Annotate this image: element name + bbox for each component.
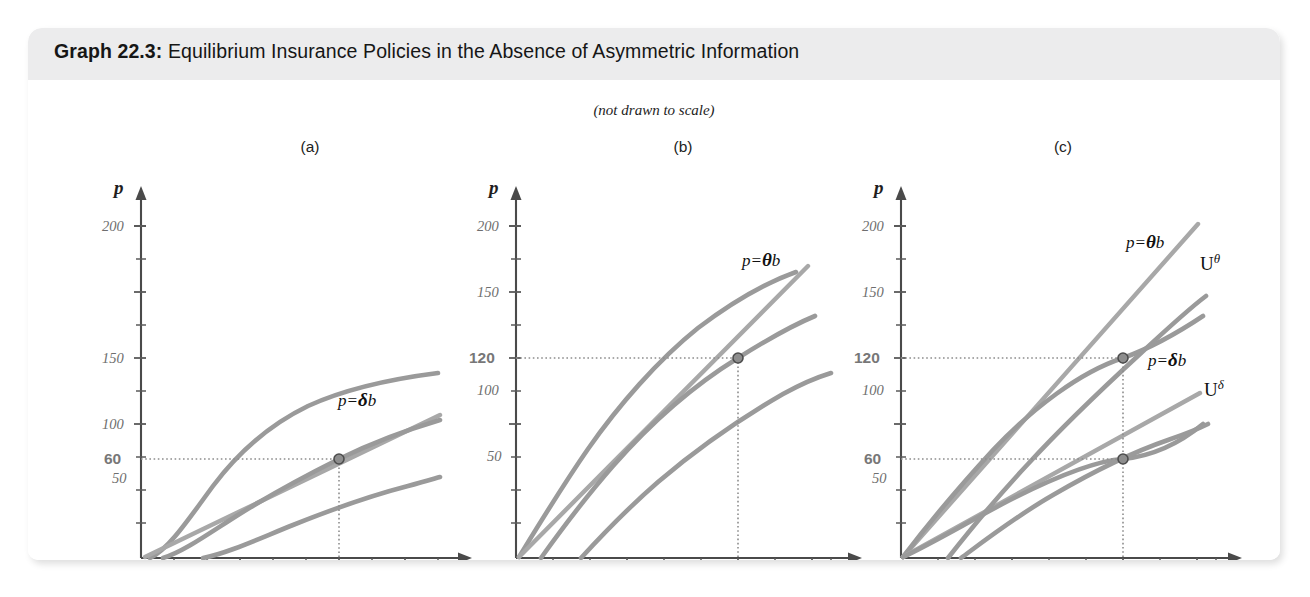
panel-b-chart: p b 200 150 120 100 50 0 100 200 240 300…: [463, 168, 863, 560]
panel-a-chart: p b 200 150 100 60 50 0 100 200 240 300 …: [88, 168, 488, 560]
panel-label-a: (a): [280, 138, 340, 156]
y-tick-60-a: 60: [104, 450, 121, 467]
panel-b-labels: p b 200 150 120 100 50 0 100 200 240 300…: [469, 177, 861, 560]
y-axis-arrow-a: [136, 186, 147, 200]
panel-a-labels: p b 200 150 100 60 50 0 100 200 240 300 …: [102, 177, 470, 560]
curve-label-theta-b: p=θb: [741, 249, 780, 270]
indifference-curve-lower-a: [203, 477, 440, 558]
indifference-curve-equilibrium-b: [541, 316, 815, 558]
y-tick-100-a: 100: [102, 416, 125, 432]
y-tick-60-c: 60: [864, 450, 881, 467]
panel-b-axes: [511, 186, 863, 560]
indifference-curve-lower-b: [581, 373, 831, 558]
y-tick-150-a: 150: [102, 350, 125, 366]
equilibrium-marker-high-c: [1118, 353, 1128, 363]
y-tick-100-c: 100: [862, 382, 885, 398]
y-tick-200-a: 200: [102, 218, 125, 234]
utility-label-theta-c: Uθ: [1200, 251, 1221, 274]
panel-label-c: (c): [1033, 138, 1093, 156]
curve-label-delta-c: p=δb: [1147, 349, 1186, 370]
panel-c-guides: [901, 353, 1128, 558]
y-tick-120-c: 120: [854, 349, 880, 366]
y-tick-100-b: 100: [477, 382, 500, 398]
panel-label-b: (b): [653, 138, 713, 156]
y-axis-arrow-c: [896, 186, 907, 200]
figure-title: Equilibrium Insurance Policies in the Ab…: [168, 40, 799, 62]
equilibrium-marker-a: [334, 454, 344, 464]
panel-c-chart: p b 200 150 120 100 60 50 0 100 200 240 …: [848, 168, 1268, 560]
y-tick-200-b: 200: [477, 218, 500, 234]
curve-label-delta-a: p=δb: [337, 389, 376, 410]
budget-line-theta-c: [903, 224, 1198, 557]
equilibrium-marker-b: [733, 353, 743, 363]
y-axis-label-a: p: [112, 177, 124, 198]
y-tick-50-c: 50: [872, 470, 887, 486]
y-tick-150-b: 150: [477, 284, 500, 300]
y-tick-120-b: 120: [469, 349, 495, 366]
y-tick-150-c: 150: [862, 284, 885, 300]
panel-c-curves: [903, 224, 1208, 558]
panel-a-curves: [145, 373, 440, 558]
y-axis-arrow-b: [511, 186, 522, 200]
panel-c-labels: p b 200 150 120 100 60 50 0 100 200 240 …: [854, 177, 1243, 560]
x-axis-arrow-c: [1228, 553, 1242, 561]
scale-note: (not drawn to scale): [28, 102, 1280, 119]
equilibrium-marker-low-c: [1118, 454, 1128, 464]
y-tick-50-b: 50: [487, 448, 502, 464]
y-axis-label-b: p: [487, 177, 499, 198]
y-tick-200-c: 200: [862, 218, 885, 234]
utility-label-delta-c: Uδ: [1204, 377, 1225, 400]
curve-label-theta-c: p=θb: [1125, 231, 1164, 252]
panel-b-curves: [519, 266, 831, 558]
figure-root: Graph 22.3: Equilibrium Insurance Polici…: [0, 0, 1310, 597]
figure-caption: Graph 22.3: Equilibrium Insurance Polici…: [54, 40, 799, 63]
figure-body: (not drawn to scale) (a) (b) (c): [28, 80, 1280, 560]
y-axis-label-c: p: [872, 177, 884, 198]
y-tick-50-a: 50: [112, 470, 127, 486]
indifference-curve-upper-a: [150, 373, 438, 558]
figure-number: Graph 22.3:: [54, 40, 162, 62]
figure-card: Graph 22.3: Equilibrium Insurance Polici…: [28, 28, 1280, 560]
